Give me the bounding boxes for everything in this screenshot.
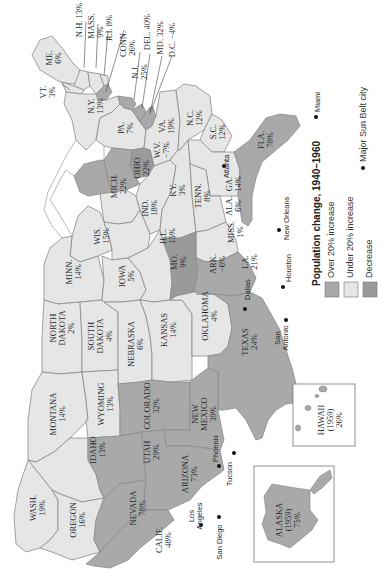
svg-text:ME.6%: ME.6% — [44, 51, 63, 66]
legend-label-under20: Under 20% increase — [345, 196, 355, 278]
legend-label-over20: Over 20% increase — [326, 201, 336, 278]
svg-text:IND.18%: IND.18% — [140, 199, 159, 216]
population-change-map: ME.6% VT.3% N.H. 13% MASS.9% R.I. 8% CON… — [0, 0, 384, 576]
svg-text:D.C. −4%: D.C. −4% — [167, 23, 177, 57]
city-dot-san-antonio — [284, 318, 288, 322]
svg-text:ILL.15%: ILL.15% — [158, 228, 177, 244]
svg-text:San Diego: San Diego — [215, 524, 224, 559]
svg-text:New Orleans: New Orleans — [282, 196, 291, 240]
svg-text:R.I. 8%: R.I. 8% — [104, 15, 114, 41]
svg-text:S.C.12%: S.C.12% — [208, 124, 227, 140]
city-dot-miami — [314, 115, 318, 119]
legend-swatch-decrease — [363, 282, 377, 297]
svg-text:KY.3%: KY.3% — [168, 183, 187, 196]
svg-text:N.H. 13%: N.H. 13% — [74, 3, 84, 37]
svg-text:CALIF.48%: CALIF.48% — [154, 527, 173, 553]
svg-text:Atlanta: Atlanta — [222, 154, 231, 178]
svg-text:OHIO22%: OHIO22% — [132, 157, 151, 178]
svg-text:VA.19%: VA.19% — [157, 118, 176, 134]
svg-text:DEL. 40%: DEL. 40% — [142, 14, 152, 50]
svg-text:LA.21%: LA.21% — [240, 254, 259, 270]
city-dot-phoenix — [217, 464, 221, 468]
svg-text:CONN.26%: CONN.26% — [118, 31, 137, 57]
legend-title: Population change, 1940–1960 — [311, 141, 322, 286]
legend-label-decrease: Decrease — [364, 239, 374, 278]
svg-text:ARK.−6%: ARK.−6% — [208, 254, 227, 274]
svg-text:VT.3%: VT.3% — [38, 86, 57, 99]
svg-text:PA.7%: PA.7% — [116, 122, 135, 134]
legend: Population change, 1940–1960 Over 20% in… — [311, 86, 377, 297]
legend-swatch-under20 — [344, 282, 358, 297]
city-dot-houston — [281, 285, 285, 289]
svg-text:N.C.12%: N.C.12% — [185, 110, 204, 126]
svg-text:LosAngeles: LosAngeles — [187, 502, 204, 529]
svg-text:Phoenix: Phoenix — [211, 435, 220, 462]
svg-text:Dallas: Dallas — [243, 279, 252, 300]
legend-swatch-over20 — [325, 282, 339, 297]
svg-text:MD. 32%: MD. 32% — [155, 21, 165, 55]
svg-text:W.V.−7%: W.V.−7% — [152, 142, 171, 159]
svg-text:N.Y.13%: N.Y.13% — [86, 98, 105, 114]
svg-text:Houston: Houston — [284, 254, 293, 282]
svg-text:MISS.1%: MISS.1% — [226, 221, 245, 243]
legend-city-marker — [361, 166, 365, 170]
city-dot-tucson — [232, 451, 236, 455]
svg-text:WIS.15%: WIS.15% — [92, 227, 111, 245]
svg-text:N.J.25%: N.J.25% — [130, 64, 149, 80]
svg-text:Miami: Miami — [313, 92, 322, 112]
svg-text:Tucson: Tucson — [225, 462, 234, 486]
city-dot-san-diego — [217, 515, 221, 519]
city-dot-dallas — [243, 307, 247, 311]
city-dot-new-orleans — [277, 228, 281, 232]
svg-text:MO.9%: MO.9% — [169, 254, 188, 270]
legend-label-city: Major Sun Belt city — [358, 86, 368, 162]
svg-text:FLA.78%: FLA.78% — [256, 131, 275, 149]
svg-text:MASS.9%: MASS.9% — [86, 13, 105, 38]
